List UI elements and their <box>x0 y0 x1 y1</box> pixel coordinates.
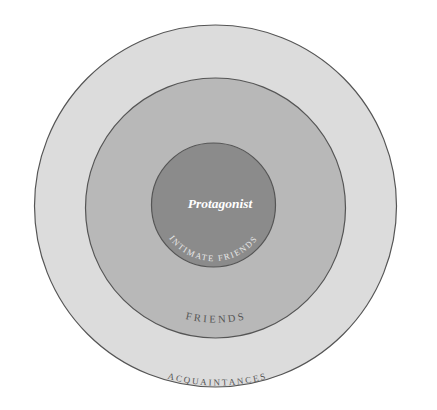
protagonist-label: Protagonist <box>188 196 254 211</box>
social-circles-diagram: Protagonist INTIMATE FRIENDS FRIENDS ACQ… <box>0 0 437 410</box>
